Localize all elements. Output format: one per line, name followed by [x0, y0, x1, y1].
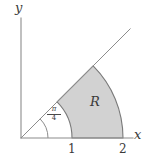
angle-label: π 4: [47, 106, 61, 122]
x-tick-label-2: 2: [119, 143, 127, 155]
x-tick-label-1: 1: [68, 143, 76, 155]
y-axis-label: y: [15, 1, 22, 14]
angle-denominator: 4: [47, 115, 61, 122]
diagram-canvas: [0, 0, 152, 160]
angle-numerator: π: [47, 106, 61, 113]
x-axis-label: x: [134, 128, 141, 141]
region-label: R: [90, 95, 100, 108]
polar-region-figure: y x R 1 2 π 4: [0, 0, 152, 160]
